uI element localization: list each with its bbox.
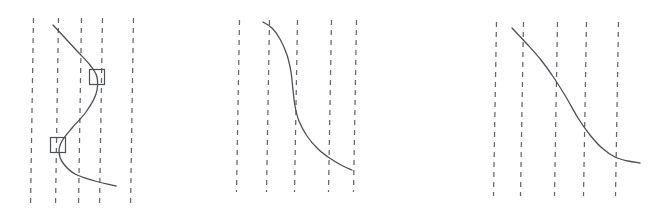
figure-canvas <box>0 0 664 212</box>
figure-container <box>0 0 664 212</box>
